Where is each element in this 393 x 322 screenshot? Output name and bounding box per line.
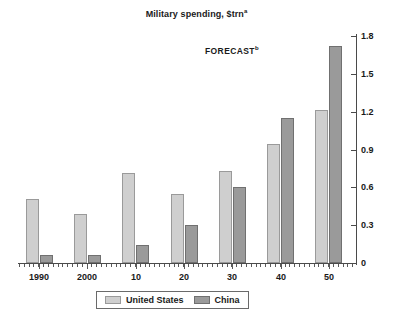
chart-title: Military spending, $trna: [0, 8, 393, 19]
y-tick-label: 0: [361, 259, 366, 268]
x-tick-minor: [101, 264, 102, 267]
bar-china-40: [281, 118, 294, 263]
x-tick-minor: [217, 264, 218, 267]
x-tick-minor: [154, 264, 155, 267]
bar-china-2000: [88, 255, 101, 263]
x-tick-minor: [33, 264, 34, 267]
x-tick-minor: [174, 264, 175, 267]
x-tick-minor: [91, 264, 92, 267]
bar-china-50: [329, 46, 342, 263]
y-tick-label: 1.5: [361, 69, 374, 78]
x-tick-minor: [145, 264, 146, 267]
x-tick-major: [232, 264, 233, 269]
x-tick-minor: [72, 264, 73, 267]
x-tick-minor: [256, 264, 257, 267]
y-tick-label: 0.3: [361, 221, 374, 230]
x-tick-label-2000: 2000: [77, 272, 97, 282]
x-tick-minor: [294, 264, 295, 267]
x-tick-minor: [222, 264, 223, 267]
x-tick-minor: [275, 264, 276, 267]
x-tick-major: [184, 264, 185, 269]
bar-china-10: [136, 245, 149, 263]
x-tick-minor: [328, 264, 329, 267]
x-tick-minor: [48, 264, 49, 267]
x-tick-minor: [38, 264, 39, 267]
x-tick-minor: [352, 264, 353, 267]
x-tick-minor: [314, 264, 315, 267]
x-tick-major: [281, 264, 282, 269]
x-tick-minor: [43, 264, 44, 267]
bar-us-30: [219, 171, 232, 263]
x-tick-minor: [343, 264, 344, 267]
x-tick-minor: [24, 264, 25, 267]
x-tick-minor: [135, 264, 136, 267]
x-tick-label-20: 20: [179, 272, 189, 282]
x-tick-minor: [125, 264, 126, 267]
x-tick-minor: [111, 264, 112, 267]
y-tick-label: 1.2: [361, 107, 374, 116]
x-tick-minor: [231, 264, 232, 267]
x-tick-minor: [67, 264, 68, 267]
x-tick-minor: [159, 264, 160, 267]
y-tick-mark: [351, 36, 357, 37]
x-tick-minor: [140, 264, 141, 267]
x-tick-minor: [120, 264, 121, 267]
bar-us-10: [122, 173, 135, 263]
x-tick-minor: [289, 264, 290, 267]
x-tick-minor: [318, 264, 319, 267]
bar-china-30: [233, 187, 246, 263]
x-tick-minor: [149, 264, 150, 267]
x-tick-minor: [82, 264, 83, 267]
y-tick-label: 0.9: [361, 145, 374, 154]
x-tick-minor: [19, 264, 20, 267]
x-tick-major: [39, 264, 40, 269]
bar-us-40: [267, 144, 280, 263]
legend-swatch-china: [194, 296, 210, 304]
x-tick-minor: [338, 264, 339, 267]
x-tick-minor: [106, 264, 107, 267]
x-tick-minor: [212, 264, 213, 267]
x-tick-minor: [53, 264, 54, 267]
x-tick-minor: [241, 264, 242, 267]
x-tick-minor: [96, 264, 97, 267]
x-tick-minor: [62, 264, 63, 267]
x-tick-minor: [265, 264, 266, 267]
bar-us-1990: [26, 199, 39, 263]
x-tick-minor: [280, 264, 281, 267]
x-tick-minor: [323, 264, 324, 267]
x-tick-label-1990: 1990: [29, 272, 49, 282]
x-tick-label-30: 30: [227, 272, 237, 282]
x-tick-minor: [178, 264, 179, 267]
legend-item-china: China: [194, 295, 240, 305]
x-tick-minor: [270, 264, 271, 267]
x-tick-minor: [169, 264, 170, 267]
x-tick-minor: [116, 264, 117, 267]
x-tick-minor: [183, 264, 184, 267]
bar-china-20: [185, 225, 198, 263]
legend-label-united-states: United States: [126, 295, 184, 305]
x-tick-label-50: 50: [324, 272, 334, 282]
chart-title-text: Military spending, $trn: [146, 9, 244, 19]
legend-swatch-united-states: [105, 296, 121, 304]
legend-item-united-states: United States: [105, 295, 184, 305]
x-tick-minor: [207, 264, 208, 267]
chart-legend: United States China: [96, 291, 249, 309]
bar-us-20: [171, 194, 184, 263]
y-tick-mark: [351, 187, 357, 188]
x-tick-minor: [236, 264, 237, 267]
bar-us-2000: [74, 214, 87, 263]
bar-us-50: [315, 110, 328, 263]
x-tick-minor: [304, 264, 305, 267]
x-tick-minor: [164, 264, 165, 267]
x-tick-label-40: 40: [276, 272, 286, 282]
chart-title-footnote-marker: a: [244, 8, 247, 14]
x-tick-minor: [260, 264, 261, 267]
x-tick-minor: [198, 264, 199, 267]
x-tick-minor: [246, 264, 247, 267]
x-tick-minor: [87, 264, 88, 267]
y-tick-label: 1.8: [361, 32, 374, 41]
x-tick-minor: [227, 264, 228, 267]
x-tick-major: [329, 264, 330, 269]
x-tick-minor: [299, 264, 300, 267]
x-tick-minor: [347, 264, 348, 267]
